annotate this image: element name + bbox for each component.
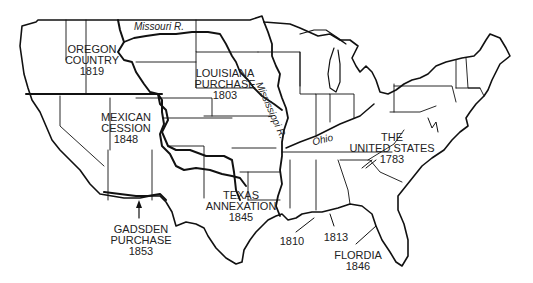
lake-michigan (328, 48, 340, 92)
label-texas: TEXAS ANNEXATION 1845 (196, 190, 286, 223)
label-mexican: MEXICAN CESSION 1848 (86, 112, 166, 145)
label-gadsden-year: 1853 (98, 246, 184, 257)
arrow-1810 (296, 218, 314, 232)
label-missouri-river: Missouri R. (134, 21, 184, 32)
texas-boundary (158, 94, 240, 200)
label-oregon: OREGON COUNTRY 1819 (52, 44, 132, 77)
label-united-states: THE UNITED STATES 1783 (342, 132, 442, 165)
label-us-year: 1783 (342, 154, 442, 165)
label-florida: FLORDIA 1846 (322, 250, 394, 272)
label-mexican-year: 1848 (86, 134, 166, 145)
label-florida-year: 1846 (322, 261, 394, 272)
label-1813: 1813 (316, 232, 356, 243)
arrow-florida (356, 226, 376, 244)
arrow-1813 (330, 214, 334, 226)
chesapeake-bay (428, 118, 438, 132)
lake-superior (300, 30, 346, 44)
label-1810: 1810 (272, 236, 312, 247)
label-1813-year: 1813 (316, 232, 356, 243)
label-texas-year: 1845 (196, 212, 286, 223)
label-oregon-year: 1819 (52, 66, 132, 77)
label-gadsden: GADSDEN PURCHASE 1853 (98, 224, 184, 257)
label-1810-year: 1810 (272, 236, 312, 247)
